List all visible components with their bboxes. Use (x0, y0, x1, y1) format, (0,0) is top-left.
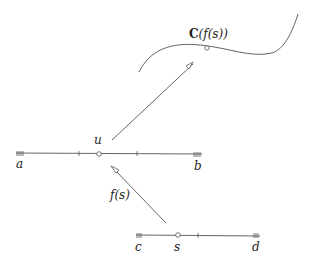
u-axis-line (16, 153, 202, 154)
s-label: s (174, 240, 180, 254)
s-point-marker (176, 233, 181, 238)
b-end-ticks (194, 152, 200, 157)
b-label: b (194, 159, 202, 173)
a-end-ticks (17, 151, 23, 156)
c-label: c (135, 240, 142, 254)
curve-point-marker (205, 46, 209, 50)
curve-c (139, 14, 298, 72)
d-end-ticks (254, 233, 258, 238)
a-label: a (16, 157, 23, 171)
d-label: d (252, 240, 260, 254)
u-label: u (94, 133, 102, 147)
c-end-ticks (137, 233, 141, 238)
u-point-marker (97, 152, 102, 157)
curve-point-label: C(f(s)) (189, 27, 228, 41)
f-of-s-label: f(s) (109, 188, 130, 202)
arrow-u-to-curve (112, 64, 193, 140)
diagram-canvas: C(f(s)) u a b f(s) c s d (0, 0, 310, 268)
arrowhead-icon (111, 166, 119, 173)
